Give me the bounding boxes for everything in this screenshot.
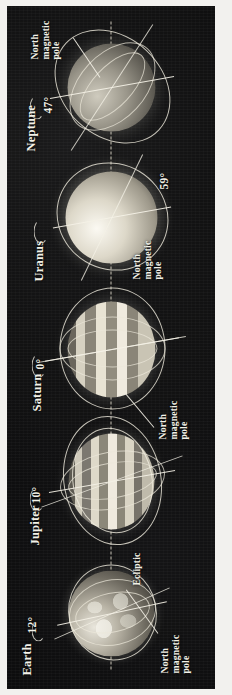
- callout-north-magnetic-pole-uranus: North magnetic pole: [131, 240, 163, 279]
- figure-canvas: Earth 12° North magnetic pole Ecliptic: [7, 6, 215, 689]
- label-saturn-tilt: 0°: [33, 358, 45, 369]
- callout-north-magnetic-pole-neptune: North magnetic pole: [29, 20, 61, 59]
- callout-north-magnetic-pole-earth: North magnetic pole: [159, 634, 191, 673]
- label-neptune: Neptune: [23, 104, 38, 151]
- callout-line-1: North: [159, 634, 170, 673]
- callout-line-1: North: [29, 20, 40, 59]
- callout-line-3: pole: [152, 240, 163, 279]
- callout-line-1: North: [131, 240, 142, 279]
- callout-line-2: magnetic: [170, 634, 181, 673]
- label-ecliptic: Ecliptic: [131, 552, 142, 585]
- figure-plate: Earth 12° North magnetic pole Ecliptic: [7, 6, 215, 689]
- planet-uranus: Uranus 59° North magnetic pole: [7, 149, 215, 285]
- uranus-spin-arrow: [33, 219, 48, 243]
- figure-page: Earth 12° North magnetic pole Ecliptic: [0, 0, 232, 695]
- callout-line-3: pole: [50, 20, 61, 59]
- label-saturn: Saturn: [29, 373, 44, 411]
- label-earth-tilt: 12°: [25, 616, 37, 633]
- label-neptune-tilt: 47°: [41, 96, 53, 113]
- label-jupiter-tilt: 10°: [29, 486, 41, 503]
- callout-line-2: magnetic: [142, 240, 153, 279]
- label-jupiter: Jupiter: [27, 505, 42, 545]
- label-uranus-tilt: 59°: [157, 172, 169, 189]
- planet-saturn: Saturn 0°: [7, 281, 215, 417]
- label-earth: Earth: [19, 643, 34, 675]
- label-uranus: Uranus: [31, 240, 46, 281]
- callout-line-2: magnetic: [40, 20, 51, 59]
- callout-line-3: pole: [180, 634, 191, 673]
